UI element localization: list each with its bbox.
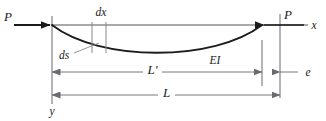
label-element-dx-top: dx [91, 4, 111, 20]
label-axis-y: y [48, 105, 55, 118]
buckled-column-figure: P P x y dx ds EI L' L e L'Ldx [0, 0, 326, 121]
ds-leader-line [74, 43, 99, 53]
label-axis-x: x [310, 19, 317, 31]
figure-canvas: P P x y dx ds EI L' L e [0, 0, 326, 121]
label-element-ds: ds [59, 49, 70, 61]
label-length-deformed-top: L' [143, 62, 162, 78]
label-shortening: e [305, 66, 310, 78]
label-load-right: P [283, 7, 292, 22]
buckled-beam-curve [52, 25, 262, 53]
label-stiffness: EI [209, 54, 222, 66]
label-length-original-top: L [158, 85, 175, 101]
label-load-left: P [3, 9, 12, 24]
